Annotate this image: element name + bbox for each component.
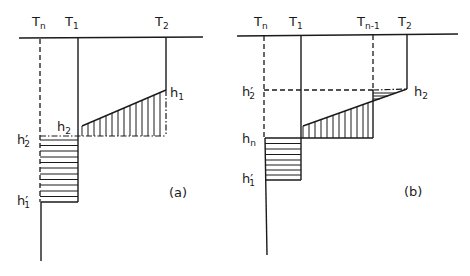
vertical-hatch-a xyxy=(82,93,160,136)
diagram-canvas: Tn T1 T2 h1 h2 h′2 h′1 (a) xyxy=(0,0,470,276)
label-tn-a: Tn xyxy=(31,14,46,31)
label-h2-a: h2 xyxy=(57,119,71,136)
horizontal-hatch-b xyxy=(265,144,301,176)
borehole-line-b xyxy=(265,138,267,255)
label-t2-a: T2 xyxy=(154,14,169,31)
surface-line-b xyxy=(237,34,458,36)
panel-a: Tn T1 T2 h1 h2 h′2 h′1 (a) xyxy=(17,14,203,261)
label-hn-b: hn xyxy=(242,131,256,148)
panel-b: Tn T1 Tn-1 T2 h2 h′2 hn h′1 (b) xyxy=(237,14,458,255)
label-h2-prime-a: h′2 xyxy=(17,132,30,149)
horizontal-hatch-a xyxy=(40,140,78,197)
label-h2-b: h2 xyxy=(414,84,428,101)
label-h2-prime-b: h′2 xyxy=(242,84,255,101)
label-tn1-b: Tn-1 xyxy=(356,14,380,31)
label-t1-a: T1 xyxy=(64,14,79,31)
label-h1-prime-b: h′1 xyxy=(242,171,255,188)
label-t1-b: T1 xyxy=(288,14,303,31)
caption-a: (a) xyxy=(169,185,187,200)
label-t2-b: T2 xyxy=(397,14,412,31)
label-tn-b: Tn xyxy=(253,14,268,31)
caption-b: (b) xyxy=(404,184,422,199)
surface-line-a xyxy=(19,37,203,38)
label-h1-a: h1 xyxy=(170,85,184,102)
label-h1-prime-a: h′1 xyxy=(17,193,30,210)
h2-dashdot-b xyxy=(373,89,407,90)
vertical-hatch-b xyxy=(303,103,368,138)
